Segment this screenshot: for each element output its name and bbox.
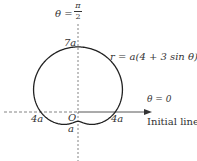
equation-label: r = a(4 + 3 sin θ)	[110, 52, 197, 62]
arrow-icon	[144, 109, 152, 115]
polar-diagram	[0, 0, 197, 161]
fraction-numerator: π	[74, 2, 82, 10]
pole-label: O	[68, 113, 76, 123]
fraction-denominator: 2	[74, 13, 82, 21]
initial-line-label: Initial line	[147, 117, 197, 127]
left-intercept-label: 4a	[31, 114, 43, 124]
fraction: π 2	[74, 2, 82, 21]
top-intercept-label: 7a	[64, 38, 76, 48]
vertical-axis-label: θ =	[55, 9, 73, 19]
initial-angle-label: θ = 0	[147, 95, 171, 104]
right-intercept-label: 4a	[111, 114, 123, 124]
theta-equals: θ =	[55, 8, 73, 19]
bottom-intercept-label: a	[68, 124, 74, 134]
